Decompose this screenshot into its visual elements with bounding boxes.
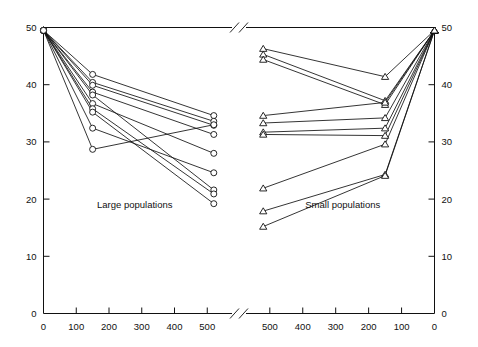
- data-point-circle: [211, 122, 217, 128]
- data-point-triangle: [260, 208, 267, 214]
- svg-text:Small populations: Small populations: [305, 199, 380, 210]
- data-point-circle: [41, 27, 47, 33]
- data-point-circle: [90, 92, 96, 98]
- series-line: [263, 30, 434, 211]
- panel-captions: Large populationsSmall populations: [97, 199, 381, 210]
- svg-text:10: 10: [442, 251, 453, 262]
- svg-text:0: 0: [41, 321, 46, 332]
- series-line: [44, 30, 214, 149]
- svg-text:400: 400: [295, 321, 311, 332]
- data-point-circle: [211, 201, 217, 207]
- svg-text:0: 0: [432, 321, 437, 332]
- series-line: [263, 30, 434, 226]
- svg-text:50: 50: [442, 22, 453, 33]
- series-line: [263, 30, 434, 132]
- data-point-circle: [211, 191, 217, 197]
- svg-text:400: 400: [167, 321, 183, 332]
- svg-text:40: 40: [26, 79, 37, 90]
- series-line: [44, 30, 214, 172]
- svg-text:40: 40: [442, 79, 453, 90]
- svg-text:0: 0: [442, 308, 447, 319]
- left-x-axis: 0100200300400500: [41, 308, 215, 332]
- svg-text:100: 100: [68, 321, 84, 332]
- data-point-circle: [90, 82, 96, 88]
- left-panel-series: [41, 27, 217, 206]
- data-point-circle: [211, 131, 217, 137]
- right-y-axis: 01020304050: [429, 22, 453, 319]
- svg-text:100: 100: [394, 321, 410, 332]
- right-x-axis: 5004003002001000: [262, 308, 437, 332]
- svg-text:300: 300: [328, 321, 344, 332]
- series-line: [44, 30, 214, 134]
- left-y-axis: 01020304050: [26, 22, 50, 319]
- plot-frame: [44, 23, 435, 319]
- series-line: [44, 30, 214, 190]
- series-line: [44, 30, 214, 125]
- data-point-circle: [90, 125, 96, 131]
- svg-text:0: 0: [31, 308, 36, 319]
- svg-text:200: 200: [101, 321, 117, 332]
- series-line: [44, 30, 214, 121]
- data-point-triangle: [260, 185, 267, 191]
- data-point-circle: [90, 146, 96, 152]
- svg-text:10: 10: [26, 251, 37, 262]
- data-point-circle: [90, 109, 96, 115]
- chart-canvas: 0100200300400500 5004003002001000 010203…: [0, 0, 478, 347]
- data-point-triangle: [381, 141, 388, 147]
- svg-text:20: 20: [26, 194, 37, 205]
- svg-text:20: 20: [442, 194, 453, 205]
- data-point-triangle: [260, 223, 267, 229]
- series-line: [263, 30, 434, 115]
- svg-text:300: 300: [134, 321, 150, 332]
- svg-text:200: 200: [361, 321, 377, 332]
- svg-text:30: 30: [442, 136, 453, 147]
- svg-text:500: 500: [199, 321, 215, 332]
- data-point-circle: [90, 71, 96, 77]
- svg-text:50: 50: [26, 22, 37, 33]
- series-line: [263, 30, 434, 123]
- figure-container: 0100200300400500 5004003002001000 010203…: [0, 0, 478, 347]
- svg-text:500: 500: [262, 321, 278, 332]
- data-point-circle: [211, 170, 217, 176]
- data-point-circle: [211, 113, 217, 119]
- svg-text:Large populations: Large populations: [97, 199, 173, 210]
- svg-text:30: 30: [26, 136, 37, 147]
- data-point-circle: [211, 150, 217, 156]
